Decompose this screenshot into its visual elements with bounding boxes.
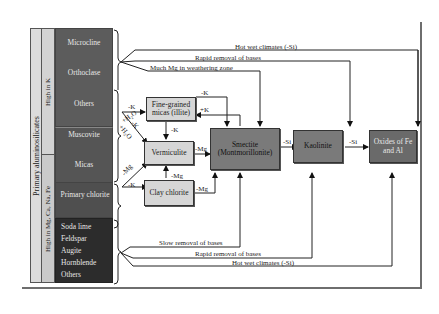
box-smectite: Smectite (Montmorillonite) (210, 128, 280, 170)
label-chlorite-minus-mg-right: -Mg (196, 185, 208, 193)
box-oxides-fe-al: Oxides of Fe and Al (369, 130, 417, 163)
label-bottom-hot-wet: Hot wet climates (-Si) (232, 259, 294, 267)
label-smectite-plus-k: +K (200, 106, 209, 114)
box-vermiculite: Vermiculite (144, 141, 194, 165)
label-vermiculite-minus-mg: -Mg (195, 145, 207, 153)
box-kaolinite: Kaolinite (293, 130, 343, 163)
label-top-hot-wet: Hot wet climates (-Si) (235, 43, 297, 51)
label-kaolinite-minus-si: -Si (349, 138, 357, 146)
label-top-much-mg: Much Mg in weathering zone (150, 64, 233, 72)
label-illite-to-vermiculite-minus-k: -K (171, 126, 178, 134)
label-top-rapid: Rapid removal of bases (195, 54, 261, 62)
label-chlorite-minus-mg-up: -Mg (171, 172, 183, 180)
label-minus-k-bottom: -K (128, 181, 135, 189)
label-bottom-slow: Slow removal of bases (159, 239, 223, 247)
box-clay-chlorite: Clay chlorite (144, 180, 194, 206)
label-smectite-minus-si: -Si (283, 138, 291, 146)
label-illite-minus-k: -K (201, 89, 208, 97)
label-bottom-rapid: Rapid removal of bases (195, 250, 261, 258)
box-fine-grained-micas: Fine-grained micas (illite) (146, 97, 196, 121)
